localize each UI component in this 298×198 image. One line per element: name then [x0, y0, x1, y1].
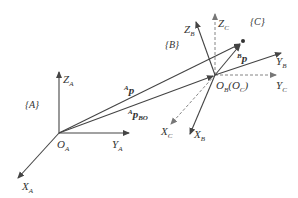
x-b-axis	[190, 75, 215, 134]
vector-a-p-bo-label: ApBO	[127, 108, 148, 122]
origin-a-label: OA	[57, 138, 70, 153]
x-a-label: XA	[21, 180, 34, 195]
z-b-label: ZB	[184, 23, 195, 38]
origin-b-c-label: OB(OC)	[216, 79, 249, 94]
z-b-axis	[196, 22, 215, 75]
point-p	[241, 39, 245, 43]
y-a-label: YA	[112, 138, 123, 153]
x-a-axis	[18, 133, 59, 178]
frame-a-label: {A}	[25, 99, 39, 110]
frame-c-label: {C}	[250, 16, 265, 27]
y-b-label: YB	[276, 55, 287, 70]
coordinate-frames-diagram: {A} ZA YA XA OA Ap ApBO Bp {B} {C} ZB ZC…	[0, 0, 298, 198]
vector-a-p	[59, 44, 240, 133]
vector-a-p-label: Ap	[123, 84, 135, 96]
vector-a-p-bo	[59, 76, 213, 133]
frame-b-label: {B}	[165, 39, 179, 50]
x-c-label: XC	[160, 125, 173, 140]
x-b-label: XB	[193, 128, 206, 143]
diagram-svg: {A} ZA YA XA OA Ap ApBO Bp {B} {C} ZB ZC…	[0, 0, 298, 198]
vector-b-p-label: Bp	[236, 52, 248, 64]
z-a-label: ZA	[63, 73, 74, 88]
x-c-axis	[171, 75, 215, 124]
y-b-axis	[215, 53, 281, 75]
y-c-label: YC	[276, 79, 287, 94]
z-c-label: ZC	[218, 17, 229, 32]
